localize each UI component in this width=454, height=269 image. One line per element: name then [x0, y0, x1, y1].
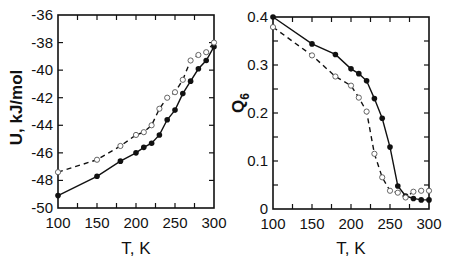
- data-point-open: [309, 53, 314, 58]
- data-point-open: [196, 52, 201, 57]
- data-point-open: [419, 188, 424, 193]
- data-point-filled: [356, 71, 362, 77]
- data-point-open: [204, 50, 209, 55]
- data-point-open: [395, 190, 400, 195]
- x-tick-label: 100: [45, 214, 70, 231]
- data-point-open: [387, 188, 392, 193]
- data-point-open: [270, 24, 275, 29]
- data-point-open: [133, 132, 138, 137]
- data-point-filled: [196, 66, 202, 72]
- y-tick-label: -36: [31, 6, 53, 23]
- x-tick-label: 300: [201, 214, 226, 231]
- data-point-open: [165, 95, 170, 100]
- data-point-filled: [149, 140, 155, 146]
- data-point-open: [380, 175, 385, 180]
- series-right: [270, 14, 432, 202]
- data-point-open: [118, 143, 123, 148]
- data-point-open: [364, 109, 369, 114]
- data-point-filled: [411, 196, 417, 202]
- panel-order-parameter: 10015020025030000.10.20.30.4 T, K Q6: [229, 8, 442, 258]
- data-point-filled: [364, 78, 370, 84]
- y-tick-label: 0.4: [247, 8, 268, 25]
- data-point-open: [94, 157, 99, 162]
- data-point-open: [149, 123, 154, 128]
- series-line-filled: [58, 47, 214, 196]
- axis-ticks-right: [273, 17, 429, 209]
- data-point-filled: [203, 58, 209, 64]
- data-point-open: [356, 95, 361, 100]
- x-tick-label: 200: [338, 215, 363, 232]
- y-tick-label: -40: [31, 61, 53, 78]
- data-point-open: [403, 195, 408, 200]
- x-tick-label: 250: [377, 215, 402, 232]
- y-axis-label-left: U, kJ/mol: [7, 70, 26, 146]
- figure: 100150200250300-50-48-46-44-42-40-38-36 …: [0, 0, 454, 269]
- data-point-filled: [270, 14, 276, 20]
- data-point-open: [55, 170, 60, 175]
- x-axis-label-left: T, K: [121, 239, 151, 258]
- y-tick-label: -48: [31, 171, 53, 188]
- y-tick-label: 0.2: [247, 104, 268, 121]
- x-tick-label: 300: [416, 215, 441, 232]
- data-point-filled: [55, 193, 61, 199]
- data-point-filled: [395, 183, 401, 189]
- y-tick-label: -50: [31, 199, 53, 216]
- x-tick-label: 250: [162, 214, 187, 231]
- y-axis-label-subscript: 6: [238, 93, 252, 100]
- data-point-filled: [426, 197, 432, 203]
- y-axis-label-main: Q: [229, 100, 248, 113]
- y-tick-label: 0: [260, 200, 268, 217]
- data-point-open: [333, 74, 338, 79]
- data-point-filled: [418, 197, 424, 203]
- x-tick-label: 150: [299, 215, 324, 232]
- series-line-open: [273, 27, 429, 197]
- data-point-filled: [387, 144, 393, 150]
- y-tick-label: -46: [31, 144, 53, 161]
- y-tick-label: -44: [31, 116, 53, 133]
- data-point-open: [372, 151, 377, 156]
- x-tick-label: 100: [260, 215, 285, 232]
- data-point-open: [188, 58, 193, 63]
- data-point-filled: [133, 150, 139, 156]
- data-point-filled: [379, 115, 385, 121]
- data-point-open: [348, 83, 353, 88]
- x-tick-label: 150: [84, 214, 109, 231]
- y-tick-label: 0.3: [247, 56, 268, 73]
- data-point-filled: [141, 145, 147, 151]
- data-point-open: [157, 106, 162, 111]
- plot-frame-right: [273, 17, 429, 209]
- tick-labels-left: 100150200250300-50-48-46-44-42-40-38-36: [31, 6, 226, 231]
- data-point-filled: [164, 117, 170, 123]
- data-point-open: [411, 189, 416, 194]
- data-point-filled: [172, 107, 178, 113]
- x-axis-label-right: T, K: [336, 239, 366, 258]
- data-point-filled: [157, 132, 163, 138]
- data-point-filled: [94, 173, 100, 179]
- data-point-filled: [333, 52, 339, 58]
- y-tick-label: -42: [31, 89, 53, 106]
- data-point-filled: [188, 78, 194, 84]
- data-point-filled: [348, 66, 354, 72]
- data-point-filled: [118, 158, 124, 164]
- data-point-open: [172, 90, 177, 95]
- y-tick-label: -38: [31, 34, 53, 51]
- data-point-filled: [180, 91, 186, 97]
- data-point-open: [211, 40, 216, 45]
- y-tick-label: 0.1: [247, 152, 268, 169]
- plot-frame-left: [58, 15, 214, 208]
- axis-ticks-left: [58, 15, 214, 208]
- data-point-open: [426, 188, 431, 193]
- data-point-filled: [372, 96, 378, 102]
- series-left: [55, 40, 217, 198]
- x-tick-label: 200: [123, 214, 148, 231]
- data-point-filled: [309, 41, 315, 47]
- data-point-open: [141, 130, 146, 135]
- data-point-open: [180, 77, 185, 82]
- panel-energy: 100150200250300-50-48-46-44-42-40-38-36 …: [7, 6, 227, 258]
